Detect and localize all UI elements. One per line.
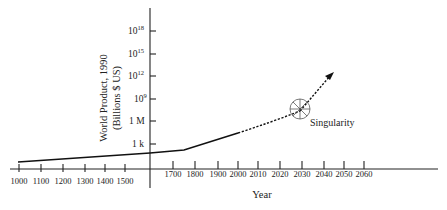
svg-text:(Billions $ US): (Billions $ US) [111,65,123,130]
svg-text:1300: 1300 [77,176,94,186]
svg-text:1400: 1400 [97,176,114,186]
singularity-marker-icon [290,99,310,119]
historical-series-line [18,133,238,162]
svg-text:1000: 1000 [11,176,28,186]
svg-text:1100: 1100 [33,176,50,186]
projected-series-arrow-line [300,76,330,111]
svg-text:2040: 2040 [316,169,333,179]
svg-text:1800: 1800 [187,169,204,179]
x-tick-labels-left: 1000 1100 1200 1300 1400 1500 [11,176,134,186]
y-tick-label: 1015 [128,47,144,59]
y-tick-label: 1012 [128,69,144,81]
x-axis-title: Year [252,189,272,200]
singularity-chart: 1018 1015 1012 109 1 M 1 k World Product… [0,0,447,210]
y-tick-label: 109 [134,92,147,104]
svg-text:1900: 1900 [210,169,227,179]
svg-text:2000: 2000 [230,169,247,179]
svg-text:2020: 2020 [272,169,289,179]
y-tick-label: 1018 [128,24,144,36]
svg-text:1700: 1700 [165,169,182,179]
svg-text:2050: 2050 [336,169,353,179]
x-tick-labels-right: 1700 1800 1900 2000 2010 2020 2030 2040 … [165,169,373,179]
svg-text:2010: 2010 [250,169,267,179]
projected-series-line [238,111,300,133]
arrowhead-icon [325,72,334,80]
singularity-label: Singularity [310,117,354,128]
x-ticks-left [19,164,125,172]
svg-text:1500: 1500 [117,176,134,186]
y-tick-label: 1 k [132,139,144,149]
y-ticks [150,31,156,144]
svg-text:1200: 1200 [55,176,72,186]
svg-text:2060: 2060 [356,169,373,179]
svg-text:2030: 2030 [294,169,311,179]
svg-text:World Product, 1990: World Product, 1990 [98,54,109,142]
y-axis-title: World Product, 1990 (Billions $ US) [98,54,123,142]
x-ticks-right [173,161,364,169]
y-tick-labels: 1018 1015 1012 109 1 M 1 k [128,24,147,149]
y-tick-label: 1 M [129,116,145,126]
